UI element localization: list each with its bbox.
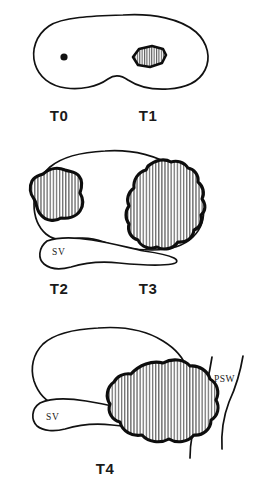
- stage-label-t4: T4: [96, 460, 115, 477]
- panel-t4: SV PSW T4: [32, 328, 243, 477]
- seminal-vesicle-label-panel3: SV: [46, 412, 59, 422]
- pelvic-side-wall-outer-line: [222, 356, 243, 449]
- stage-label-t3: T3: [139, 280, 157, 297]
- stage-label-t1: T1: [139, 107, 157, 124]
- panel-t2-t3: SV T2 T3: [30, 151, 205, 297]
- prostate-outline-panel1: [34, 15, 208, 90]
- t1-hatched-nodule: [133, 46, 166, 67]
- seminal-vesicle-label-panel2: SV: [52, 247, 65, 257]
- figure-root: T0 T1 SV T2 T3 SV PSW T4: [0, 0, 260, 494]
- t2-intracapsular-mass: [30, 168, 82, 220]
- stage-label-t2: T2: [50, 280, 68, 297]
- t0-microscopic-focus-dot: [60, 53, 67, 60]
- staging-diagram-svg: T0 T1 SV T2 T3 SV PSW T4: [0, 0, 260, 494]
- stage-label-t0: T0: [50, 107, 68, 124]
- panel-t0-t1: T0 T1: [34, 15, 208, 124]
- pelvic-side-wall-label: PSW: [214, 374, 235, 384]
- t3-extracapsular-mass: [126, 160, 205, 249]
